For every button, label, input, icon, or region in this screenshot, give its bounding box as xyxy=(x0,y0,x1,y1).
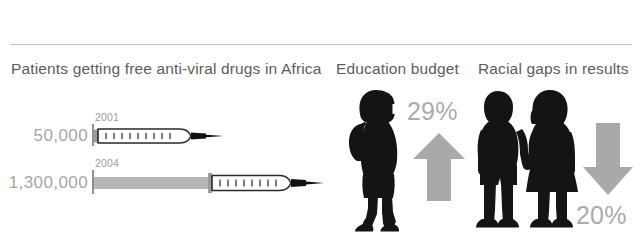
bar-year-label-2001: 2001 xyxy=(95,112,119,123)
section-heading-africa: Patients getting free anti-viral drugs i… xyxy=(11,61,321,77)
education-budget-group: 29% xyxy=(336,86,476,238)
syringe-glyph-2001 xyxy=(94,125,224,147)
percent-label-education: 29% xyxy=(407,99,458,124)
schoolchild-with-backpack-icon xyxy=(346,88,414,234)
arrow-up-icon xyxy=(412,132,466,202)
arrow-down-icon xyxy=(582,122,634,196)
racial-gaps-group: 20% xyxy=(472,86,642,238)
bar-value-label-2001: 50,000 xyxy=(0,127,88,144)
section-heading-education-budget: Education budget xyxy=(336,61,459,77)
infographic-canvas: Patients getting free anti-viral drugs i… xyxy=(0,0,642,243)
section-heading-racial-gaps: Racial gaps in results xyxy=(478,61,629,77)
bar-year-label-2004: 2004 xyxy=(95,158,119,169)
two-children-holding-hands-icon xyxy=(474,88,582,234)
bar-value-label-2004: 1,300,000 xyxy=(0,174,88,191)
percent-label-racial: 20% xyxy=(576,203,627,228)
top-divider-rule xyxy=(10,44,632,45)
syringe-glyph-2004 xyxy=(94,171,324,195)
